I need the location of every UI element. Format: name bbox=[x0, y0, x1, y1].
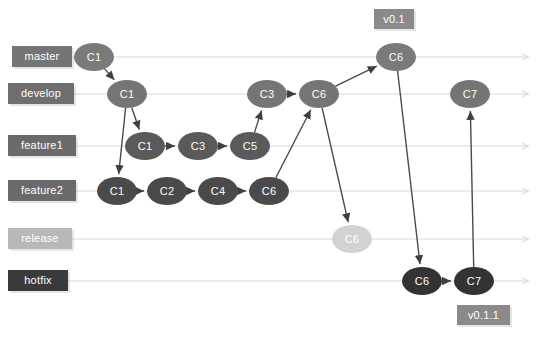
commit-node-f2-c2[interactable]: C2 bbox=[147, 177, 187, 205]
branch-label-feature2[interactable]: feature2 bbox=[8, 180, 76, 201]
commit-node-h-c6[interactable]: C6 bbox=[402, 267, 442, 295]
commit-node-f1-c3[interactable]: C3 bbox=[178, 132, 218, 160]
tag-v0-1-1[interactable]: v0.1.1 bbox=[457, 305, 510, 325]
branch-label-master[interactable]: master bbox=[12, 46, 72, 67]
edge-d-c1-to-f2-c1 bbox=[119, 108, 126, 174]
edge-d-c6-to-r-c6 bbox=[322, 108, 348, 222]
branch-label-release[interactable]: release bbox=[8, 228, 72, 249]
commit-node-f1-c5[interactable]: C5 bbox=[230, 132, 270, 160]
commit-node-f2-c6[interactable]: C6 bbox=[249, 177, 289, 205]
edge-m-c1-to-d-c1 bbox=[105, 69, 115, 80]
tag-v0-1[interactable]: v0.1 bbox=[374, 9, 414, 29]
branch-label-develop[interactable]: develop bbox=[8, 83, 74, 104]
commit-node-d-c3[interactable]: C3 bbox=[247, 80, 287, 108]
edge-d-c1-to-f1-c1 bbox=[132, 108, 140, 130]
edge-f1-c5-to-d-c3 bbox=[255, 111, 262, 133]
commit-node-f1-c1[interactable]: C1 bbox=[125, 132, 165, 160]
commit-node-f2-c1[interactable]: C1 bbox=[97, 177, 137, 205]
commit-node-d-c6[interactable]: C6 bbox=[299, 80, 339, 108]
edge-h-c7-to-d-c7 bbox=[470, 111, 473, 267]
git-flow-diagram: masterdevelopfeature1feature2releasehotf… bbox=[0, 0, 537, 339]
branch-label-feature1[interactable]: feature1 bbox=[8, 135, 76, 156]
edge-f2-c6-to-d-c6 bbox=[276, 110, 311, 178]
commit-node-r-c6[interactable]: C6 bbox=[332, 225, 372, 253]
commit-node-d-c7[interactable]: C7 bbox=[450, 80, 490, 108]
edge-m-c6-to-h-c6 bbox=[398, 71, 420, 264]
commit-node-h-c7[interactable]: C7 bbox=[454, 267, 494, 295]
commit-node-d-c1[interactable]: C1 bbox=[107, 80, 147, 108]
commit-node-m-c1[interactable]: C1 bbox=[74, 43, 114, 71]
commit-node-m-c6[interactable]: C6 bbox=[376, 43, 416, 71]
branch-label-hotfix[interactable]: hotfix bbox=[8, 270, 68, 291]
edge-d-c6-to-m-c6 bbox=[336, 66, 377, 86]
commit-node-f2-c4[interactable]: C4 bbox=[198, 177, 238, 205]
